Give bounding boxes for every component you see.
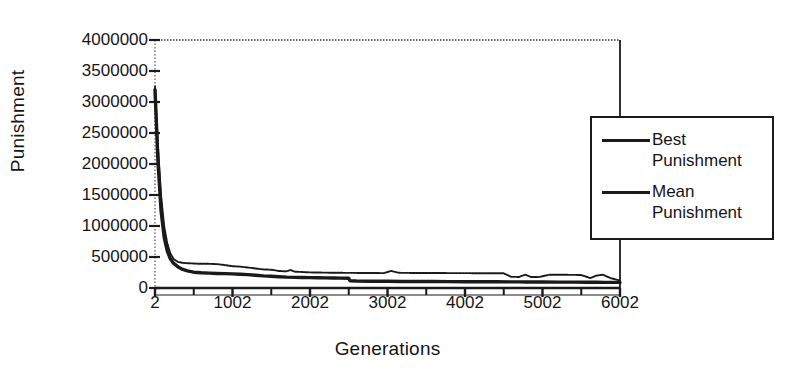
series-line-best-punishment (155, 90, 620, 283)
data-series-group (155, 87, 620, 283)
solid-thin-line-swatch-icon (600, 184, 652, 200)
punishment-vs-generations-chart: Punishment Generations 05000001000000150… (0, 0, 796, 379)
legend-label: Best Punishment (652, 129, 742, 171)
solid-thick-line-swatch-icon (600, 132, 652, 148)
x-axis (155, 288, 620, 297)
legend-entry-mean-punishment: Mean Punishment (600, 181, 770, 223)
plot-frame (155, 40, 620, 288)
legend-label: Mean Punishment (652, 181, 742, 223)
legend-entry-best-punishment: Best Punishment (600, 129, 770, 171)
chart-legend: Best Punishment Mean Punishment (590, 116, 774, 240)
series-line-mean-punishment (155, 87, 620, 281)
